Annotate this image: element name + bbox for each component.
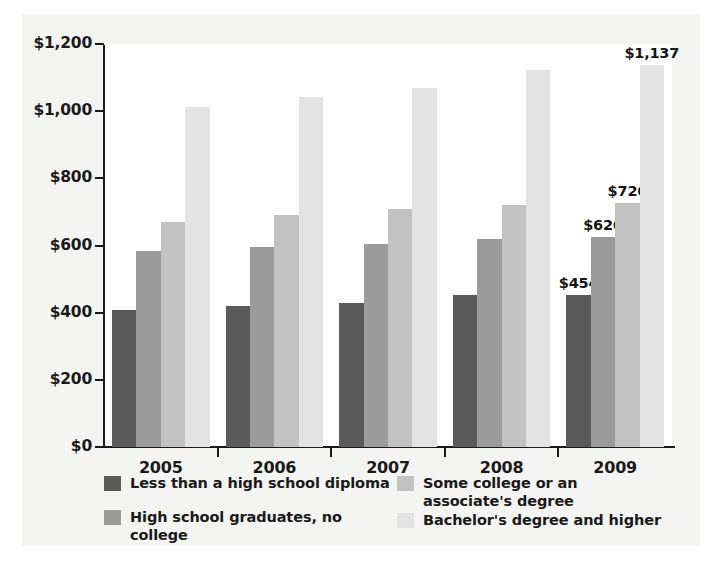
y-axis-tick <box>95 110 104 112</box>
legend-swatch-icon <box>104 476 121 491</box>
bar[interactable] <box>226 306 250 447</box>
y-axis-tick <box>95 245 104 247</box>
y-axis-tick <box>95 312 104 314</box>
legend-item-label: Some college or an associate's degree <box>423 474 577 510</box>
x-axis-tick <box>557 448 559 457</box>
y-axis-tick-label: $0 <box>6 437 92 455</box>
bar[interactable] <box>412 88 436 447</box>
y-axis-tick <box>95 446 104 448</box>
bar[interactable] <box>250 247 274 447</box>
y-axis-tick <box>95 177 104 179</box>
legend-item-label: High school graduates, no college <box>130 508 394 544</box>
legend-item-label: Less than a high school diploma <box>130 474 390 492</box>
bar[interactable] <box>299 97 323 447</box>
bar[interactable] <box>388 209 412 447</box>
legend-item[interactable]: Some college or an associate's degree <box>397 474 577 510</box>
bar[interactable] <box>453 295 477 447</box>
y-axis-tick <box>95 43 104 45</box>
bar[interactable] <box>364 244 388 447</box>
legend-swatch-icon <box>397 513 414 528</box>
legend-item[interactable]: Less than a high school diploma <box>104 474 390 492</box>
y-axis-tick-label: $1,200 <box>6 34 92 52</box>
bar[interactable] <box>526 70 550 447</box>
bar[interactable] <box>185 107 209 447</box>
bar-group <box>112 44 210 447</box>
legend-swatch-icon <box>397 476 414 491</box>
x-axis-tick <box>444 448 446 457</box>
x-axis-tick <box>330 448 332 457</box>
bar[interactable] <box>274 215 298 447</box>
legend-item[interactable]: Bachelor's degree and higher <box>397 511 661 529</box>
bar-value-label: $1,137 <box>624 45 680 61</box>
bar[interactable] <box>640 65 664 447</box>
bar-group: $454$626$726$1,137 <box>566 44 664 447</box>
y-axis-tick-label: $800 <box>6 168 92 186</box>
bar[interactable] <box>136 251 160 447</box>
x-axis-tick <box>217 448 219 457</box>
bar[interactable] <box>566 295 590 447</box>
bars-layer: $454$626$726$1,137 <box>104 44 672 447</box>
bar-group <box>453 44 551 447</box>
bar[interactable] <box>161 222 185 447</box>
y-axis-tick-label: $600 <box>6 236 92 254</box>
y-axis-tick <box>95 379 104 381</box>
bar[interactable] <box>502 205 526 447</box>
y-axis-tick-label: $1,000 <box>6 101 92 119</box>
chart-legend: Less than a high school diplomaHigh scho… <box>104 474 684 540</box>
bar[interactable] <box>615 203 639 447</box>
legend-item[interactable]: High school graduates, no college <box>104 508 394 544</box>
bar-group <box>226 44 324 447</box>
chart-figure: $0$200$400$600$800$1,000$1,200 200520062… <box>0 0 727 565</box>
bar[interactable] <box>477 239 501 447</box>
legend-swatch-icon <box>104 510 121 525</box>
bar-group <box>339 44 437 447</box>
bar[interactable] <box>112 310 136 447</box>
y-axis-tick-label: $200 <box>6 370 92 388</box>
bar[interactable] <box>591 237 615 447</box>
bar[interactable] <box>339 303 363 447</box>
y-axis-tick-label: $400 <box>6 303 92 321</box>
legend-item-label: Bachelor's degree and higher <box>423 511 661 529</box>
